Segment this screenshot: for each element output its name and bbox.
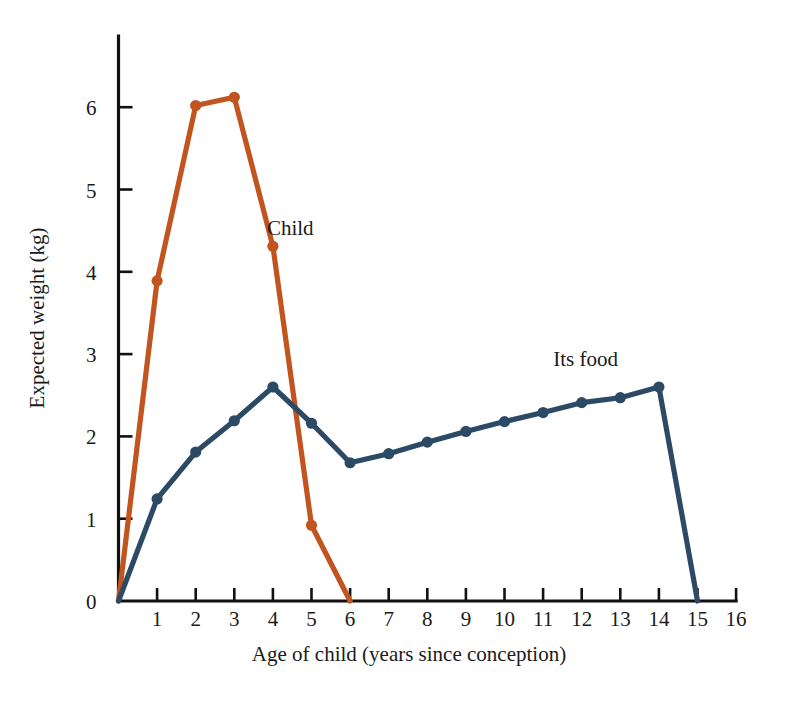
series-label-child: Child xyxy=(267,216,314,240)
data-point-marker xyxy=(306,520,317,531)
x-tick-label: 7 xyxy=(383,607,394,631)
data-point-marker xyxy=(152,275,163,286)
data-point-marker xyxy=(615,392,626,403)
data-point-marker xyxy=(229,92,240,103)
data-point-marker xyxy=(538,407,549,418)
x-tick-label: 3 xyxy=(229,607,240,631)
series-label-its-food: Its food xyxy=(553,347,618,371)
chart-container: 12345678910111213141516 0123456 ChildIts… xyxy=(0,0,799,702)
line-chart: 12345678910111213141516 0123456 ChildIts… xyxy=(0,0,799,702)
data-point-marker xyxy=(499,416,510,427)
x-tick-label: 6 xyxy=(345,607,356,631)
x-tick-label: 12 xyxy=(571,607,592,631)
data-point-marker xyxy=(190,446,201,457)
y-tick-label: 4 xyxy=(86,261,97,285)
data-point-marker xyxy=(229,415,240,426)
data-point-marker xyxy=(422,437,433,448)
x-tick-label: 13 xyxy=(610,607,631,631)
x-tick-label: 4 xyxy=(268,607,279,631)
data-point-marker xyxy=(190,100,201,111)
x-tick-label: 9 xyxy=(461,607,472,631)
data-point-marker xyxy=(152,493,163,504)
data-point-marker xyxy=(267,241,278,252)
y-tick-label: 5 xyxy=(86,179,97,203)
y-tick-label: 2 xyxy=(86,425,97,449)
x-tick-label: 1 xyxy=(152,607,163,631)
data-point-marker xyxy=(306,418,317,429)
x-tick-label: 8 xyxy=(422,607,433,631)
y-tick-label: 3 xyxy=(86,343,97,367)
x-tick-label: 16 xyxy=(726,607,747,631)
y-tick-label: 0 xyxy=(86,590,97,614)
x-tick-label: 2 xyxy=(190,607,201,631)
x-tick-label: 15 xyxy=(687,607,708,631)
data-point-marker xyxy=(267,381,278,392)
data-point-marker xyxy=(345,457,356,468)
x-axis-title: Age of child (years since conception) xyxy=(252,642,566,666)
y-tick-label: 1 xyxy=(86,508,97,532)
x-tick-label: 10 xyxy=(494,607,515,631)
x-tick-label: 5 xyxy=(306,607,317,631)
data-point-marker xyxy=(576,397,587,408)
x-tick-label: 11 xyxy=(533,607,553,631)
data-point-marker xyxy=(653,381,664,392)
data-point-marker xyxy=(460,426,471,437)
y-axis-title: Expected weight (kg) xyxy=(25,228,49,409)
x-tick-label: 14 xyxy=(648,607,670,631)
y-tick-label: 6 xyxy=(86,96,97,120)
data-point-marker xyxy=(383,448,394,459)
